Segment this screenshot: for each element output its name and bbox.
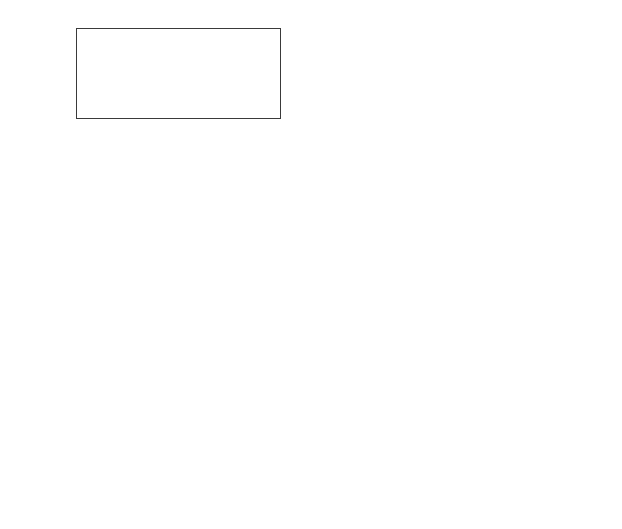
- chart-figure: [0, 0, 622, 529]
- chart-legend: [76, 28, 281, 119]
